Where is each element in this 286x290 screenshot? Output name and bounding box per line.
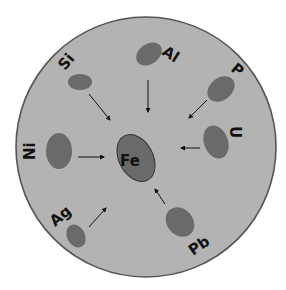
ni-label: Ni [21,142,39,160]
u-label: U [226,126,244,138]
diagram-canvas: Fe Al Si P Ni U Ag Pb [0,0,286,290]
fe-label: Fe [120,152,140,170]
